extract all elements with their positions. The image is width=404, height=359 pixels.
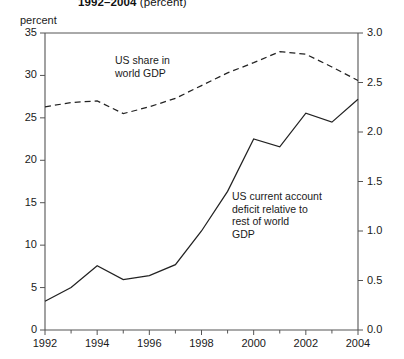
y-tick-label-left: 20 bbox=[9, 153, 37, 165]
x-tick-label: 1996 bbox=[129, 337, 169, 349]
x-tick-label: 2002 bbox=[286, 337, 326, 349]
plot-area bbox=[45, 33, 358, 330]
annotation-us-deficit: US current account deficit relative to r… bbox=[232, 190, 322, 240]
y-tick-label-right: 1.5 bbox=[367, 175, 397, 187]
y-tick-label-right: 3.0 bbox=[367, 26, 397, 38]
x-tick-label: 2004 bbox=[338, 337, 378, 349]
y-tick-label-right: 2.5 bbox=[367, 76, 397, 88]
series-group bbox=[45, 52, 358, 302]
chart-svg bbox=[0, 0, 404, 359]
y-tick-label-left: 5 bbox=[9, 281, 37, 293]
annotation-us-share: US share in world GDP bbox=[115, 54, 170, 79]
y-tick-label-left: 15 bbox=[9, 196, 37, 208]
y-tick-label-right: 2.0 bbox=[367, 125, 397, 137]
x-tick-label: 2000 bbox=[234, 337, 274, 349]
axes-group bbox=[40, 33, 363, 335]
x-tick-label: 1994 bbox=[77, 337, 117, 349]
x-tick-label: 1992 bbox=[25, 337, 65, 349]
series-line-us-share bbox=[45, 52, 358, 114]
y-tick-label-left: 10 bbox=[9, 238, 37, 250]
y-tick-label-left: 0 bbox=[9, 323, 37, 335]
y-tick-label-left: 25 bbox=[9, 111, 37, 123]
y-tick-label-right: 1.0 bbox=[367, 224, 397, 236]
x-tick-label: 1998 bbox=[182, 337, 222, 349]
y-tick-label-left: 35 bbox=[9, 26, 37, 38]
y-tick-label-right: 0.5 bbox=[367, 274, 397, 286]
chart-figure: 1992–2004 (percent) percent 051015202530… bbox=[0, 0, 404, 359]
y-tick-label-right: 0.0 bbox=[367, 323, 397, 335]
y-tick-label-left: 30 bbox=[9, 68, 37, 80]
